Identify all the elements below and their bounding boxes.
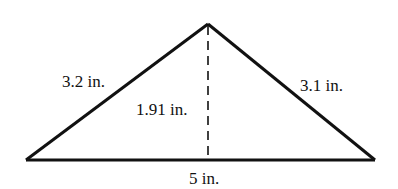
- left-side: [26, 24, 208, 160]
- triangle-diagram: 3.2 in. 3.1 in. 1.91 in. 5 in.: [0, 0, 398, 189]
- left-side-label: 3.2 in.: [62, 72, 105, 91]
- base-label: 5 in.: [189, 169, 219, 188]
- right-side: [208, 24, 375, 160]
- right-side-label: 3.1 in.: [300, 76, 343, 95]
- height-label: 1.91 in.: [136, 100, 187, 119]
